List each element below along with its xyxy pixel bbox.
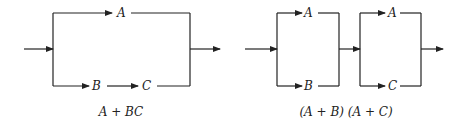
block2-label-c: C <box>388 79 397 93</box>
diagram-a-plus-bc: A B C A + BC <box>24 6 220 119</box>
label-c: C <box>142 79 151 93</box>
label-b: B <box>91 79 101 93</box>
caption-left: A + BC <box>98 105 144 119</box>
caption-right: (A + B) (A + C) <box>299 105 393 119</box>
switching-circuit-diagrams: A B C A + BC A B A C (A + B) (A + C) <box>0 0 463 123</box>
label-a: A <box>116 6 126 20</box>
block1-label-a: A <box>303 6 313 20</box>
diagram-ab-times-ac: A B A C (A + B) (A + C) <box>245 6 443 119</box>
block1-label-b: B <box>303 79 313 93</box>
block2-label-a: A <box>387 6 397 20</box>
